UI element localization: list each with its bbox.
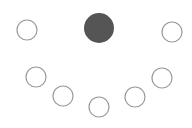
filled-circle-node: [84, 13, 114, 43]
empty-circle-node: [89, 97, 109, 117]
diagram-canvas: [0, 0, 192, 128]
empty-circle-node: [162, 22, 182, 42]
circle-arrangement-diagram: [0, 0, 192, 128]
empty-circle-node: [152, 68, 172, 88]
empty-circle-node: [26, 67, 46, 87]
empty-circle-node: [125, 87, 145, 107]
empty-circle-node: [17, 20, 37, 40]
empty-circle-node: [53, 86, 73, 106]
